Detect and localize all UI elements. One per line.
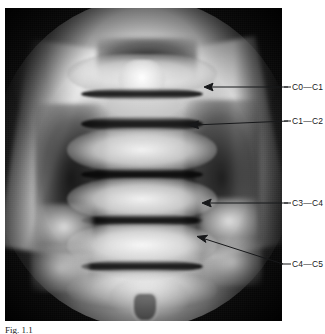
annotation-label-c0-c1: C0—C1 <box>292 83 323 92</box>
radiograph-figure: C0—C1 C1—C2 C3—C4 C4—C5 Fig. 1.1 <box>0 0 325 334</box>
figure-caption: Fig. 1.1 <box>5 325 295 334</box>
annotation-label-c4-c5: C4—C5 <box>292 260 323 269</box>
film-vignette <box>5 8 282 321</box>
annotation-label-c3-c4: C3—C4 <box>292 199 323 208</box>
annotation-label-c1-c2: C1—C2 <box>292 117 323 126</box>
cervical-spine-radiograph <box>5 8 282 321</box>
